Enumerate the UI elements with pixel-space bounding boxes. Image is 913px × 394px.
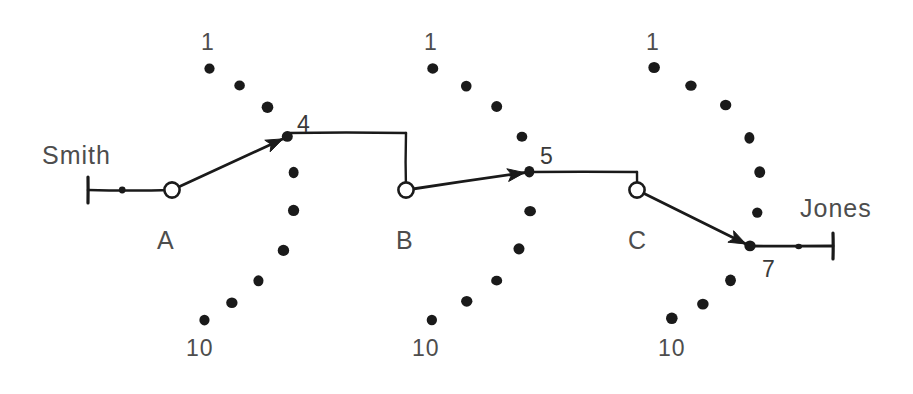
contact-dot-a-4	[282, 131, 293, 142]
wire-group	[88, 133, 833, 259]
contact-dot-a-7	[278, 245, 289, 256]
contact-dot-b-6	[524, 206, 536, 216]
source-label: Smith	[42, 143, 111, 168]
dial-first-label-c: 1	[646, 31, 660, 54]
contact-dot-b-10	[427, 315, 437, 325]
wiper-arm-a	[172, 137, 287, 190]
switch-label-c: C	[628, 228, 647, 253]
switch-label-b: B	[396, 228, 414, 253]
selector-diagram-svg	[0, 0, 913, 394]
dial-last-label-b: 10	[412, 337, 440, 360]
dial-first-label-a: 1	[201, 31, 215, 54]
contact-dot-a-3	[262, 101, 274, 112]
contact-dot-c-3	[720, 100, 731, 111]
contact-dot-group	[119, 62, 802, 326]
contact-dot-b-5	[524, 166, 534, 178]
contact-dot-a-6	[288, 205, 299, 216]
wiper-arm-c	[637, 190, 750, 246]
destination-label: Jones	[800, 196, 872, 221]
jones-line-junction-dot	[795, 244, 802, 249]
contact-dot-b-3	[491, 101, 502, 112]
dial-last-label-c: 10	[658, 337, 686, 360]
contact-dot-a-10	[199, 315, 209, 326]
contact-dot-b-2	[461, 81, 472, 92]
contact-dot-c-6	[752, 207, 762, 217]
dial-first-label-b: 1	[424, 31, 438, 54]
switch-label-a: A	[157, 228, 175, 253]
contact-dot-c-10	[666, 313, 678, 325]
dial-last-label-a: 10	[186, 337, 214, 360]
selected-position-c: 7	[762, 258, 776, 281]
contact-dot-a-8	[253, 275, 263, 286]
smith-feed-junction-dot	[119, 187, 126, 194]
contact-dot-c-9	[697, 299, 709, 310]
contact-dot-b-7	[513, 243, 524, 254]
selected-position-a: 4	[297, 113, 311, 136]
wiper-arm-b	[406, 172, 529, 190]
contact-dot-a-5	[289, 167, 299, 178]
contact-dot-b-8	[491, 276, 502, 286]
contact-dot-b-1	[427, 63, 438, 74]
diagram-canvas: Smith Jones A 1 10 4 B 1 10 5 C 1 10 7	[0, 0, 913, 394]
contact-dot-a-1	[204, 64, 214, 74]
contact-dot-c-5	[754, 166, 765, 178]
contact-dot-c-1	[648, 62, 660, 73]
contact-dot-c-7	[744, 240, 755, 251]
contact-dot-c-8	[725, 275, 736, 287]
selected-position-b: 5	[540, 145, 554, 168]
contact-dot-b-9	[461, 296, 472, 307]
pivot-group	[164, 182, 644, 197]
contact-dot-b-4	[517, 132, 528, 142]
contact-dot-c-2	[685, 80, 696, 90]
contact-dot-a-9	[226, 298, 237, 308]
wiper-arrow-group	[265, 139, 746, 244]
contact-dot-c-4	[744, 132, 754, 144]
pivot-c	[629, 182, 644, 197]
pivot-b	[398, 182, 413, 197]
contact-dot-a-2	[234, 81, 245, 91]
smith-feed-wire	[88, 190, 172, 191]
pivot-a	[164, 182, 179, 197]
